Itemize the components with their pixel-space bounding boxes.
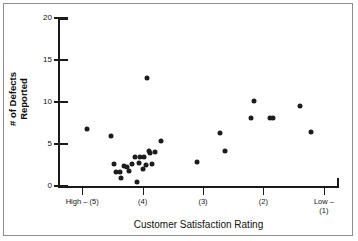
y-tick-label-15: 15 <box>30 55 52 64</box>
data-point <box>129 162 134 167</box>
data-point <box>136 161 141 166</box>
data-point <box>158 139 163 144</box>
y-tick-label-20: 20 <box>30 13 52 22</box>
x-tick-label-low-line2: (1) <box>314 206 334 215</box>
x-tick-label-2: (2) <box>259 197 268 206</box>
data-point <box>194 159 199 164</box>
x-tick-label-1: Low –(1) <box>314 197 334 215</box>
x-tick-1 <box>324 188 325 195</box>
data-point <box>117 169 122 174</box>
data-point <box>222 148 227 153</box>
x-tick-2 <box>263 188 264 195</box>
data-point <box>217 131 222 136</box>
data-point <box>271 115 276 120</box>
y-tick-10 <box>54 101 68 103</box>
x-axis-title: Customer Satisfaction Rating <box>58 219 339 230</box>
x-tick-label-4: (4) <box>138 197 147 206</box>
data-point <box>127 168 132 173</box>
x-tick-label-low-line1: Low – <box>314 197 334 206</box>
data-point <box>112 162 117 167</box>
y-axis-title-line2: Reported <box>18 59 29 139</box>
x-tick-4 <box>143 188 144 195</box>
data-point <box>85 126 90 131</box>
x-tick-5 <box>82 188 83 195</box>
x-axis-right-cap <box>337 178 339 188</box>
y-tick-label-0: 0 <box>30 181 52 190</box>
x-axis-line <box>58 186 339 188</box>
data-point <box>143 163 148 168</box>
data-point <box>141 154 146 159</box>
x-tick-label-5: High – (5) <box>66 197 99 206</box>
y-tick-label-5: 5 <box>30 139 52 148</box>
data-point <box>249 115 254 120</box>
y-tick-20 <box>54 17 68 19</box>
data-point <box>145 76 150 81</box>
y-tick-0 <box>54 185 68 187</box>
data-point <box>152 150 157 155</box>
x-tick-label-3: (3) <box>198 197 207 206</box>
data-point <box>150 162 155 167</box>
data-point <box>134 179 139 184</box>
x-tick-3 <box>203 188 204 195</box>
y-axis-title-line1: # of Defects <box>7 59 18 139</box>
y-axis-line <box>58 18 60 188</box>
data-point <box>109 134 114 139</box>
data-point <box>297 104 302 109</box>
y-tick-label-10: 10 <box>30 97 52 106</box>
data-point <box>118 175 123 180</box>
data-point <box>132 155 137 160</box>
data-point <box>251 99 256 104</box>
y-tick-5 <box>54 143 68 145</box>
y-axis-title: # of Defects Reported <box>7 59 29 139</box>
y-tick-15 <box>54 59 68 61</box>
scatter-plot: 05101520 High – (5)(4)(3)(2)Low –(1) # o… <box>0 0 358 241</box>
data-point <box>308 130 313 135</box>
